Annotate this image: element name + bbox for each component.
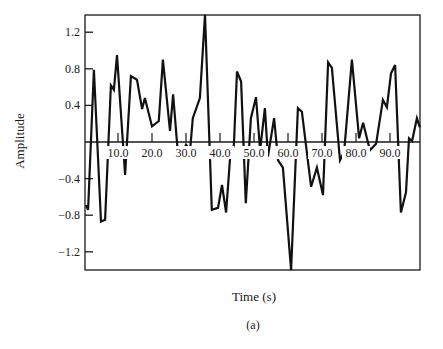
y-tick-label: 1.2 [65,25,80,39]
y-tick-label: −0.4 [58,172,80,186]
x-axis-label: Time (s) [232,289,276,305]
x-tick-label: 20.0 [142,146,163,160]
figure-caption: (a) [246,318,259,333]
y-tick-label: −1.2 [58,245,80,259]
x-tick-label: 60.0 [278,146,299,160]
x-tick-label: 90.0 [380,146,401,160]
y-axis-label: Amplitude [12,113,28,169]
x-tick-label: 10.0 [108,146,129,160]
x-tick-label: 40.0 [210,146,231,160]
x-tick-label: 50.0 [244,146,265,160]
x-tick-label: 30.0 [176,146,197,160]
chart-canvas: 1.20.80.4−0.4−0.8−1.2 10.020.030.040.050… [0,0,443,349]
y-tick-label: −0.8 [58,208,80,222]
x-tick-label: 70.0 [312,146,333,160]
y-tick-label: 0.4 [65,98,80,112]
x-tick-labels: 10.020.030.040.050.060.070.080.090.0 [104,146,404,160]
y-tick-label: 0.8 [65,62,80,76]
x-tick-label: 80.0 [346,146,367,160]
